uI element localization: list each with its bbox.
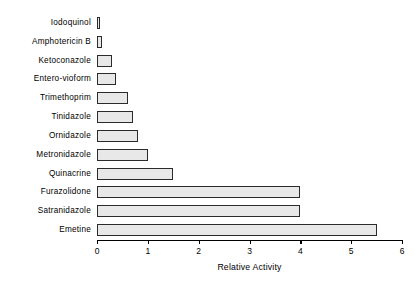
- x-tick-label: 1: [145, 246, 150, 256]
- bar-row: [97, 127, 402, 146]
- x-tick-label: 0: [95, 246, 100, 256]
- bar-row: [97, 108, 402, 127]
- bar: [97, 17, 100, 29]
- x-tick-label: 2: [196, 246, 201, 256]
- category-label: Tinidazole: [0, 108, 91, 127]
- bar: [97, 130, 138, 142]
- x-tick-mark: [199, 240, 200, 244]
- bar: [97, 186, 300, 198]
- bar: [97, 92, 128, 104]
- bar-row: [97, 14, 402, 33]
- bar: [97, 168, 173, 180]
- bar-row: [97, 146, 402, 165]
- bar-row: [97, 183, 402, 202]
- category-label: Iodoquinol: [0, 14, 91, 33]
- category-label: Amphotericin B: [0, 33, 91, 52]
- x-tick-label: 3: [247, 246, 252, 256]
- category-label: Emetine: [0, 221, 91, 240]
- category-label: Ornidazole: [0, 127, 91, 146]
- plot-area: [97, 14, 402, 240]
- bar-chart: IodoquinolAmphotericin BKetoconazoleEnte…: [0, 0, 417, 287]
- x-tick-mark: [250, 240, 251, 244]
- x-tick-mark: [97, 240, 98, 244]
- bar-row: [97, 33, 402, 52]
- category-label: Furazolidone: [0, 183, 91, 202]
- x-tick-mark: [351, 240, 352, 244]
- bar: [97, 55, 112, 67]
- category-label: Trimethoprim: [0, 89, 91, 108]
- category-label: Ketoconazole: [0, 52, 91, 71]
- x-tick-mark: [148, 240, 149, 244]
- category-label: Metronidazole: [0, 146, 91, 165]
- bar: [97, 36, 102, 48]
- bar-row: [97, 70, 402, 89]
- bar-row: [97, 89, 402, 108]
- bar-row: [97, 221, 402, 240]
- bar-row: [97, 202, 402, 221]
- category-label: Entero-vioform: [0, 70, 91, 89]
- x-tick-label: 5: [349, 246, 354, 256]
- category-label: Quinacrine: [0, 165, 91, 184]
- x-tick-mark: [402, 240, 403, 244]
- bar: [97, 205, 300, 217]
- x-tick-label: 4: [298, 246, 303, 256]
- bar-row: [97, 52, 402, 71]
- category-axis-labels: IodoquinolAmphotericin BKetoconazoleEnte…: [0, 14, 91, 240]
- bar: [97, 73, 116, 85]
- bar: [97, 224, 377, 236]
- x-axis-title: Relative Activity: [97, 262, 402, 272]
- x-tick-label: 6: [400, 246, 405, 256]
- x-tick-mark: [300, 240, 301, 244]
- bar: [97, 111, 133, 123]
- bar-row: [97, 165, 402, 184]
- category-label: Satranidazole: [0, 202, 91, 221]
- bar: [97, 149, 148, 161]
